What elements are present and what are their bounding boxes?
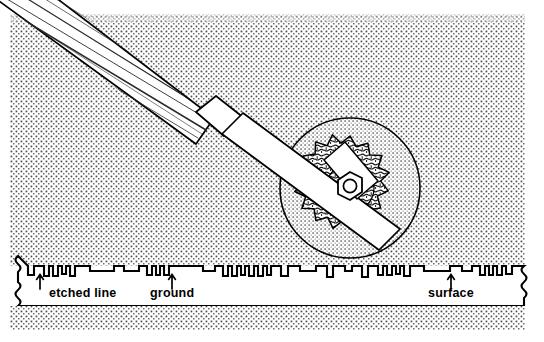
ground-label: ground — [150, 286, 194, 300]
lower-stipple-field — [10, 306, 525, 330]
illustration-canvas: etched line ground surface — [0, 0, 544, 342]
surface-label: surface — [428, 286, 474, 300]
etched-line-label: etched line — [49, 286, 117, 300]
hex-nut-bore — [343, 179, 356, 192]
technical-illustration-figure: etched line ground surface — [0, 0, 544, 342]
